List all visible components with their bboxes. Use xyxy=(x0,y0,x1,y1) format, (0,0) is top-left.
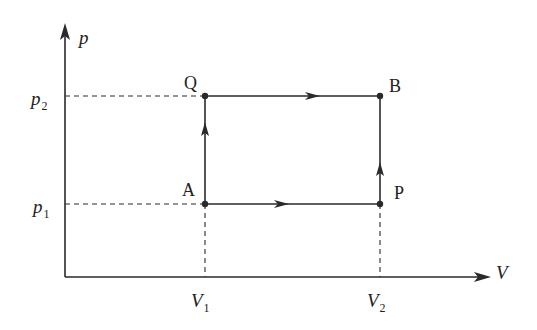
label-q: Q xyxy=(184,74,197,92)
tick-p1: p1 xyxy=(33,197,50,216)
tick-v2-sub: 2 xyxy=(380,301,386,315)
diagram-graphics xyxy=(0,0,537,330)
label-p: P xyxy=(394,184,404,202)
p-axis-label: p xyxy=(79,28,89,47)
tick-p1-base: p xyxy=(33,196,43,217)
tick-p2: p2 xyxy=(31,89,48,108)
tick-v1-sub: 1 xyxy=(204,301,210,315)
point-p xyxy=(377,201,383,207)
point-b xyxy=(377,93,383,99)
point-a xyxy=(202,201,208,207)
tick-v2: V2 xyxy=(367,291,386,310)
tick-p1-sub: 1 xyxy=(44,207,50,221)
tick-p2-sub: 2 xyxy=(42,99,48,113)
label-a: A xyxy=(182,181,195,199)
v-axis-label: V xyxy=(496,263,508,282)
tick-v1: V1 xyxy=(191,291,210,310)
tick-v1-base: V xyxy=(191,290,203,311)
label-b: B xyxy=(389,77,401,95)
point-q xyxy=(202,93,208,99)
tick-v2-base: V xyxy=(367,290,379,311)
tick-p2-base: p xyxy=(31,88,41,109)
pv-diagram: p V p2 p1 V1 V2 Q B A P xyxy=(0,0,537,330)
